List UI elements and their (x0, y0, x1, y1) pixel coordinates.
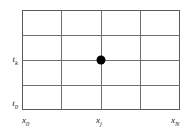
grid-stencil-figure: tk t0 x0 xj xN (0, 0, 193, 133)
grid-line-horizontal-4 (22, 109, 180, 110)
y-axis-label-tk: tk (2, 55, 18, 66)
x-axis-label-x0: x0 (22, 116, 29, 127)
grid-line-horizontal-3 (22, 85, 180, 86)
grid-node-marker (97, 56, 106, 65)
x-axis-label-xj: xj (96, 116, 102, 127)
x-axis-label-xj-sub: j (100, 120, 102, 127)
x-axis-label-x0-sub: 0 (26, 120, 29, 127)
grid-line-horizontal-0 (22, 10, 180, 11)
x-axis-label-xN-sub: N (175, 120, 179, 127)
y-axis-label-t0-sub: 0 (15, 103, 18, 110)
grid-line-horizontal-1 (22, 35, 180, 36)
y-axis-label-t0: t0 (2, 99, 18, 110)
y-axis-label-tk-sub: k (15, 59, 18, 66)
x-axis-label-xN: xN (171, 116, 179, 127)
grid-plot-area (22, 10, 180, 110)
